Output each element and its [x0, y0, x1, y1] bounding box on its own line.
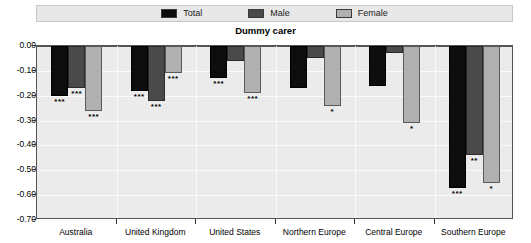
significance-marker: ***	[161, 75, 186, 82]
bar	[131, 46, 148, 91]
gridline	[37, 121, 512, 122]
x-tick-mark	[195, 219, 196, 224]
significance-marker: ***	[240, 95, 265, 102]
legend-swatch-total	[161, 9, 177, 18]
legend-label-female: Female	[358, 9, 388, 18]
bar	[324, 46, 341, 106]
bar	[369, 46, 386, 86]
bar	[85, 46, 102, 111]
bar	[244, 46, 261, 93]
bar	[449, 46, 466, 188]
vertical-gridline	[355, 46, 356, 218]
vertical-gridline	[435, 46, 436, 218]
y-axis: 0.00-0.10-0.20-0.30-0.40-0.50-0.60-0.70	[0, 45, 36, 219]
x-tick-label: Central Europe	[354, 227, 434, 237]
bar	[466, 46, 483, 155]
bar	[307, 46, 324, 58]
legend-item-female: Female	[336, 9, 388, 18]
x-tick-label: United Kingdom	[116, 227, 196, 237]
bar	[210, 46, 227, 78]
chart-figure: Total Male Female Dummy carer 0.00-0.10-…	[0, 0, 531, 243]
significance-marker: ***	[144, 103, 169, 110]
gridline	[37, 46, 512, 47]
gridline	[37, 170, 512, 171]
legend-label-total: Total	[183, 9, 202, 18]
bar	[51, 46, 68, 96]
legend-swatch-male	[248, 9, 264, 18]
plot-area: ********************************	[36, 45, 513, 219]
significance-marker: ***	[445, 190, 470, 197]
bar	[165, 46, 182, 73]
gridline	[37, 195, 512, 196]
x-tick-mark	[116, 219, 117, 224]
bar	[483, 46, 500, 183]
x-tick-mark	[354, 219, 355, 224]
significance-marker: ***	[206, 80, 231, 87]
x-tick-mark	[434, 219, 435, 224]
significance-marker: ***	[81, 113, 106, 120]
bar	[68, 46, 85, 88]
significance-marker: ***	[47, 98, 72, 105]
significance-marker: *	[479, 185, 504, 192]
bar	[290, 46, 307, 88]
significance-marker: *	[320, 108, 345, 115]
legend-item-total: Total	[161, 9, 202, 18]
x-tick-mark	[275, 219, 276, 224]
x-tick-label: United States	[195, 227, 275, 237]
gridline	[37, 145, 512, 146]
legend-swatch-female	[336, 9, 352, 18]
vertical-gridline	[117, 46, 118, 218]
significance-marker: *	[399, 125, 424, 132]
x-tick-label: Australia	[36, 227, 116, 237]
x-tick-label: Northern Europe	[275, 227, 355, 237]
bar	[148, 46, 165, 101]
chart-legend: Total Male Female	[36, 5, 513, 22]
legend-item-male: Male	[248, 9, 290, 18]
legend-label-male: Male	[270, 9, 290, 18]
chart-title: Dummy carer	[0, 25, 531, 37]
vertical-gridline	[276, 46, 277, 218]
bar	[386, 46, 403, 53]
bar	[227, 46, 244, 61]
bar	[403, 46, 420, 123]
gridline	[37, 71, 512, 72]
vertical-gridline	[196, 46, 197, 218]
x-tick-label: Southern Europe	[434, 227, 514, 237]
x-axis: AustraliaUnited KingdomUnited StatesNort…	[36, 219, 513, 243]
gridline	[37, 96, 512, 97]
